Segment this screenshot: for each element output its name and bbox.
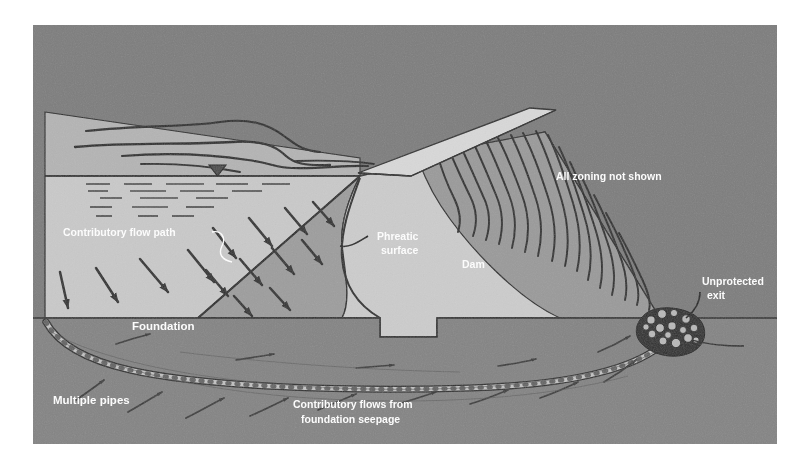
label-multiple-pipes: Multiple pipes (53, 394, 130, 406)
label-phreatic-surface-line1: Phreatic (377, 230, 419, 242)
figure-root: Contributory flow path Phreatic surface … (0, 0, 803, 465)
label-dam: Dam (462, 258, 485, 270)
label-all-zoning-not-shown: All zoning not shown (556, 170, 662, 182)
label-contributory-flows-line1: Contributory flows from (293, 398, 413, 410)
label-phreatic-surface-line2: surface (381, 244, 419, 256)
label-foundation: Foundation (132, 320, 195, 332)
dam-seepage-diagram: Contributory flow path Phreatic surface … (0, 0, 803, 465)
label-contributory-flows-line2: foundation seepage (301, 413, 400, 425)
label-unprotected-exit-line1: Unprotected (702, 275, 764, 287)
label-unprotected-exit-line2: exit (707, 289, 726, 301)
label-contributory-flow-path: Contributory flow path (63, 226, 176, 238)
